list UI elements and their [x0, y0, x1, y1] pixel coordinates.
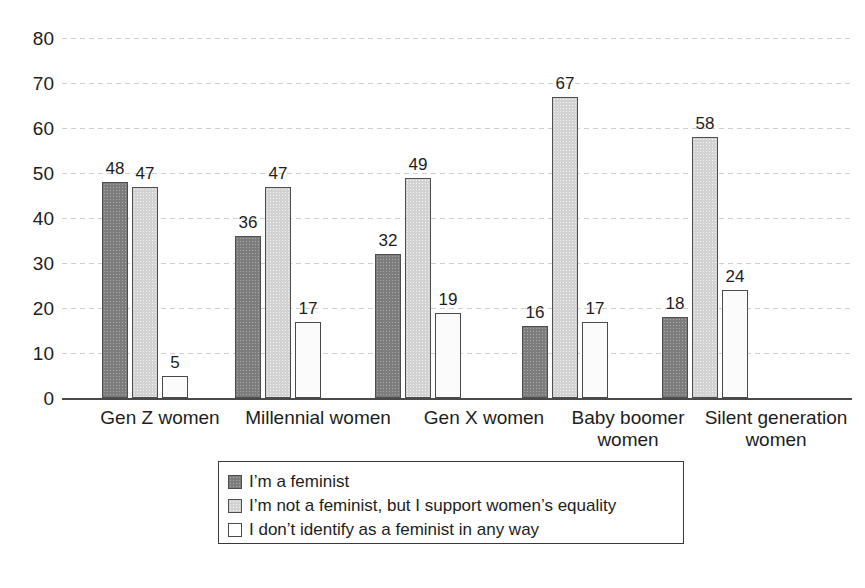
category-label: Gen X women — [404, 407, 564, 429]
bar-value-label: 58 — [685, 115, 725, 132]
bar — [722, 290, 748, 398]
bar — [405, 178, 431, 399]
y-tick-label: 10 — [8, 344, 54, 363]
axis-baseline — [62, 398, 852, 400]
gridline-40 — [62, 218, 852, 219]
bar — [522, 326, 548, 398]
bar-value-label: 32 — [368, 232, 408, 249]
gridline-60 — [62, 128, 852, 129]
legend-item-label: I don’t identify as a feminist in any wa… — [249, 520, 539, 539]
legend-item-label: I’m not a feminist, but I support women’… — [249, 496, 616, 515]
chart-legend: I’m a feminist I’m not a feminist, but I… — [218, 461, 684, 544]
y-tick-label: 20 — [8, 299, 54, 318]
bar-value-label: 67 — [545, 75, 585, 92]
gridline-50 — [62, 173, 852, 174]
bar — [552, 97, 578, 399]
bar-value-label: 17 — [575, 300, 615, 317]
y-tick-label: 40 — [8, 209, 54, 228]
bar-value-label: 47 — [125, 165, 165, 182]
legend-item[interactable]: I’m a feminist — [228, 470, 683, 493]
bar-value-label: 5 — [155, 354, 195, 371]
y-tick-label: 60 — [8, 119, 54, 138]
bar-value-label: 19 — [428, 291, 468, 308]
bar — [435, 313, 461, 399]
light-gray-swatch-icon — [228, 499, 242, 513]
bar-value-label: 36 — [228, 214, 268, 231]
legend-item[interactable]: I’m not a feminist, but I support women’… — [228, 494, 683, 517]
legend-item[interactable]: I don’t identify as a feminist in any wa… — [228, 518, 683, 541]
dark-gray-swatch-icon — [228, 475, 242, 489]
white-swatch-icon — [228, 523, 242, 537]
bar-value-label: 18 — [655, 295, 695, 312]
bar-value-label: 24 — [715, 268, 755, 285]
bar — [235, 236, 261, 398]
bar-value-label: 16 — [515, 304, 555, 321]
category-label: Millennial women — [223, 407, 413, 429]
y-tick-label: 80 — [8, 29, 54, 48]
y-tick-label: 50 — [8, 164, 54, 183]
legend-item-label: I’m a feminist — [249, 472, 349, 491]
y-tick-label: 70 — [8, 74, 54, 93]
bar-value-label: 47 — [258, 165, 298, 182]
bar-value-label: 17 — [288, 300, 328, 317]
bar-value-label: 49 — [398, 156, 438, 173]
category-label: Gen Z women — [80, 407, 240, 429]
bar — [662, 317, 688, 398]
bar — [375, 254, 401, 398]
bar-chart: 80 70 60 50 40 30 20 10 0 48475364717324… — [0, 0, 865, 588]
bar — [295, 322, 321, 399]
gridline-70 — [62, 83, 852, 84]
bar — [582, 322, 608, 399]
bar — [102, 182, 128, 398]
gridline-30 — [62, 263, 852, 264]
bar — [265, 187, 291, 399]
plot-area: 48475364717324919166717185824 — [62, 38, 852, 398]
bar — [162, 376, 188, 399]
y-tick-label: 0 — [8, 389, 54, 408]
category-label: Silent generation women — [686, 407, 865, 451]
y-tick-label: 30 — [8, 254, 54, 273]
gridline-80 — [62, 38, 852, 39]
